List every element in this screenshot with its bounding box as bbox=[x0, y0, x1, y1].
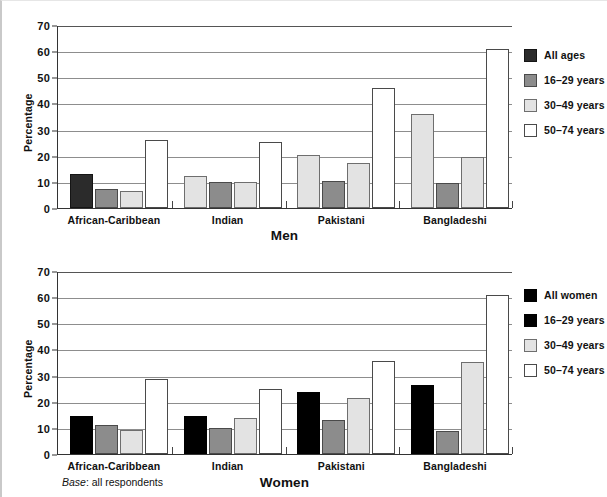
bar bbox=[145, 140, 168, 208]
legend-swatch-icon bbox=[524, 49, 537, 62]
y-axis-label-women: Percentage bbox=[22, 339, 34, 398]
group-separator-tick bbox=[286, 201, 287, 208]
y-tick-label-30: 30 bbox=[37, 371, 50, 383]
y-tick-label-60: 60 bbox=[37, 46, 50, 58]
plot-area-men bbox=[57, 26, 512, 209]
base-footnote-text: all respondents bbox=[92, 476, 163, 488]
bar bbox=[411, 385, 434, 454]
gridline-30 bbox=[58, 131, 512, 132]
y-tick-label-20: 20 bbox=[37, 397, 50, 409]
bar bbox=[259, 142, 282, 208]
y-tick-mark-70 bbox=[52, 26, 57, 27]
gridline-60 bbox=[58, 298, 512, 299]
gridline-20 bbox=[58, 403, 512, 404]
base-footnote: Base: all respondents bbox=[62, 476, 163, 488]
bar bbox=[234, 182, 257, 208]
bar bbox=[322, 420, 345, 454]
y-tick-mark-50 bbox=[52, 78, 57, 79]
legend-label: 16–29 years bbox=[544, 73, 605, 88]
group-separator-tick bbox=[172, 447, 173, 454]
bar bbox=[184, 176, 207, 208]
category-label-bangladeshi: Bangladeshi bbox=[398, 214, 512, 226]
bar bbox=[347, 163, 370, 208]
y-tick-label-0: 0 bbox=[44, 449, 50, 461]
y-tick-mark-0 bbox=[52, 209, 57, 210]
y-tick-mark-0 bbox=[52, 455, 57, 456]
y-tick-mark-70 bbox=[52, 272, 57, 273]
chart-panel-men: Percentage 010203040506070 African-Carib… bbox=[0, 12, 607, 240]
axis-end-tick bbox=[512, 447, 513, 454]
y-tick-mark-50 bbox=[52, 324, 57, 325]
y-axis-label-men: Percentage bbox=[22, 93, 34, 152]
bar bbox=[372, 361, 395, 454]
bar bbox=[486, 49, 509, 208]
group-separator-tick bbox=[399, 447, 400, 454]
y-tick-mark-20 bbox=[52, 402, 57, 403]
group-separator-tick bbox=[172, 201, 173, 208]
bar bbox=[184, 416, 207, 454]
bar bbox=[209, 428, 232, 454]
bar bbox=[436, 183, 459, 208]
bar bbox=[70, 174, 93, 208]
category-label-indian: Indian bbox=[171, 214, 285, 226]
bar bbox=[322, 181, 345, 208]
bar bbox=[297, 155, 320, 208]
group-separator-tick bbox=[399, 201, 400, 208]
y-tick-mark-20 bbox=[52, 156, 57, 157]
gridline-60 bbox=[58, 52, 512, 53]
category-label-african-caribbean: African-Caribbean bbox=[57, 460, 171, 472]
y-tick-label-20: 20 bbox=[37, 151, 50, 163]
y-tick-label-10: 10 bbox=[37, 177, 50, 189]
gridline-40 bbox=[58, 104, 512, 105]
y-tick-mark-40 bbox=[52, 350, 57, 351]
bar bbox=[120, 430, 143, 454]
bar bbox=[259, 389, 282, 454]
bar bbox=[95, 425, 118, 454]
gridline-30 bbox=[58, 377, 512, 378]
y-tick-mark-40 bbox=[52, 104, 57, 105]
gridline-50 bbox=[58, 324, 512, 325]
bar bbox=[297, 392, 320, 454]
legend-label: All women bbox=[544, 288, 597, 303]
category-label-pakistani: Pakistani bbox=[285, 214, 399, 226]
legend-swatch-icon bbox=[524, 339, 537, 352]
legend-label: 30–49 years bbox=[544, 338, 605, 353]
bar bbox=[436, 431, 459, 454]
y-tick-mark-10 bbox=[52, 428, 57, 429]
bar bbox=[411, 114, 434, 208]
legend-swatch-icon bbox=[524, 289, 537, 302]
bar bbox=[372, 88, 395, 208]
y-tick-label-30: 30 bbox=[37, 125, 50, 137]
y-tick-label-0: 0 bbox=[44, 203, 50, 215]
gridline-40 bbox=[58, 350, 512, 351]
y-tick-mark-30 bbox=[52, 130, 57, 131]
legend-swatch-icon bbox=[524, 314, 537, 327]
y-tick-label-40: 40 bbox=[37, 98, 50, 110]
bar bbox=[347, 398, 370, 454]
bar bbox=[120, 191, 143, 208]
legend-swatch-icon bbox=[524, 74, 537, 87]
bar bbox=[234, 418, 257, 454]
cutoff-header-text bbox=[0, 0, 607, 9]
legend-label: 50–74 years bbox=[544, 123, 605, 138]
bar bbox=[70, 416, 93, 454]
y-tick-label-50: 50 bbox=[37, 72, 50, 84]
y-tick-mark-60 bbox=[52, 298, 57, 299]
y-tick-label-70: 70 bbox=[37, 266, 50, 278]
legend-label: All ages bbox=[544, 48, 585, 63]
axis-end-tick bbox=[512, 201, 513, 208]
bar bbox=[486, 295, 509, 454]
category-label-indian: Indian bbox=[171, 460, 285, 472]
bar bbox=[461, 362, 484, 454]
gridline-20 bbox=[58, 157, 512, 158]
gridline-50 bbox=[58, 78, 512, 79]
gridline-70 bbox=[58, 26, 512, 27]
legend-label: 30–49 years bbox=[544, 98, 605, 113]
y-tick-mark-10 bbox=[52, 182, 57, 183]
gridline-70 bbox=[58, 272, 512, 273]
category-label-bangladeshi: Bangladeshi bbox=[398, 460, 512, 472]
bar bbox=[95, 189, 118, 208]
y-tick-mark-30 bbox=[52, 376, 57, 377]
y-tick-label-40: 40 bbox=[37, 344, 50, 356]
plot-area-women bbox=[57, 272, 512, 455]
